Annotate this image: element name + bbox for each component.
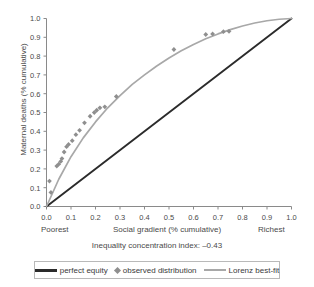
x-tick-label: 0.5 <box>164 213 174 222</box>
x-tick-label: 0.3 <box>115 213 125 222</box>
x-tick-label: 0.2 <box>90 213 100 222</box>
x-axis-label: Social gradient (% cumulative) <box>113 225 221 234</box>
series-line-perfect-equity <box>47 19 292 207</box>
x-tick-label: 1.0 <box>286 213 296 222</box>
y-tick-label: 0.1 <box>30 184 40 193</box>
x-tick-label: 0.0 <box>41 213 51 222</box>
chart-figure: Maternal deaths (% cumulative) 0.00.10.2… <box>0 0 314 287</box>
y-tick-label: 0.8 <box>30 52 40 61</box>
x-tick-label: 0.9 <box>262 213 272 222</box>
chart-legend: perfect equity observed distribution Lor… <box>34 261 280 279</box>
y-tick-label: 0.9 <box>30 33 40 42</box>
line-swatch-icon <box>35 269 57 272</box>
y-tick-label: 0.4 <box>30 127 40 136</box>
data-point-marker <box>74 132 79 137</box>
diamond-marker-icon <box>114 266 121 273</box>
legend-item-perfect-equity: perfect equity <box>35 266 108 275</box>
x-tick-label: 0.6 <box>188 213 198 222</box>
data-point-marker <box>70 138 75 143</box>
legend-label: Lorenz best-fit <box>229 266 280 275</box>
y-tick-label: 0.2 <box>30 165 40 174</box>
x-axis-high-label: Richest <box>258 225 285 234</box>
y-tick-label: 0.6 <box>30 90 40 99</box>
data-point-marker <box>82 120 87 125</box>
data-point-marker <box>47 179 52 184</box>
line-swatch-icon <box>204 269 226 271</box>
x-tick-label: 0.4 <box>139 213 149 222</box>
data-point-marker <box>88 114 93 119</box>
data-point-marker <box>77 128 82 133</box>
legend-item-observed-distribution: observed distribution <box>115 266 197 275</box>
legend-label: perfect equity <box>60 266 108 275</box>
x-tick-label: 0.1 <box>66 213 76 222</box>
x-tick-label: 0.8 <box>237 213 247 222</box>
x-axis-low-label: Poorest <box>41 225 69 234</box>
y-tick-label: 0.7 <box>30 71 40 80</box>
y-tick-label: 1.0 <box>30 14 40 23</box>
y-tick-label: 0.5 <box>30 108 40 117</box>
y-tick-label: 0.0 <box>30 202 40 211</box>
x-tick-label: 0.7 <box>213 213 223 222</box>
legend-label: observed distribution <box>123 266 197 275</box>
y-tick-label: 0.3 <box>30 146 40 155</box>
data-point-marker <box>62 150 67 155</box>
data-point-marker <box>203 32 208 37</box>
chart-caption: Inequality concentration index: –0.43 <box>0 241 314 250</box>
legend-item-lorenz-best-fit: Lorenz best-fit <box>204 266 280 275</box>
data-point-marker <box>172 47 177 52</box>
